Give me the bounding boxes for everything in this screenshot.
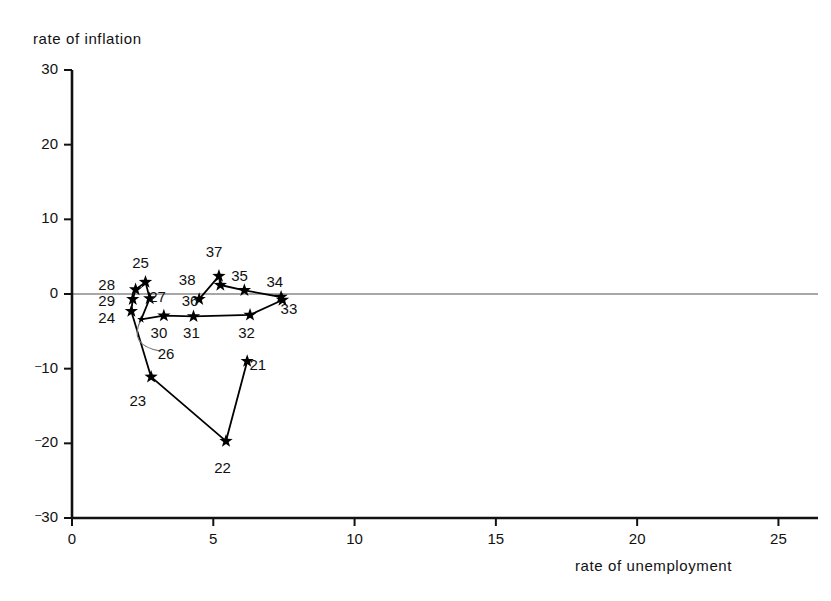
point-label-22: 22 xyxy=(214,459,231,476)
point-label-36: 36 xyxy=(182,292,199,309)
star-marker-28 xyxy=(129,283,142,296)
point-label-26: 26 xyxy=(158,345,175,362)
y-tick-label: 30 xyxy=(16,508,58,525)
y-tick-label: 20 xyxy=(16,135,58,152)
y-tick-label: 30 xyxy=(16,60,58,77)
point-label-25: 25 xyxy=(132,254,149,271)
y-tick-label: 20 xyxy=(16,433,58,450)
x-axis-title: rate of unemployment xyxy=(575,557,732,574)
y-tick-label: 10 xyxy=(16,359,58,376)
star-marker-32 xyxy=(243,308,256,321)
point-label-35: 35 xyxy=(231,267,248,284)
point-label-32: 32 xyxy=(238,324,255,341)
star-marker-26 xyxy=(137,315,145,323)
x-tick-label: 20 xyxy=(617,530,657,547)
point-label-28: 28 xyxy=(98,276,115,293)
star-marker-30 xyxy=(157,309,170,322)
point-label-33: 33 xyxy=(281,300,298,317)
point-label-27: 27 xyxy=(149,288,166,305)
point-label-21: 21 xyxy=(250,356,267,373)
point-label-30: 30 xyxy=(151,324,168,341)
point-label-37: 37 xyxy=(206,243,223,260)
y-axis-title: rate of inflation xyxy=(33,30,142,47)
point-label-31: 31 xyxy=(183,324,200,341)
x-tick-label: 10 xyxy=(335,530,375,547)
point-label-29: 29 xyxy=(98,292,115,309)
phillips-curve-chart xyxy=(0,0,831,601)
point-label-38: 38 xyxy=(179,271,196,288)
y-tick-label: 10 xyxy=(16,209,58,226)
x-tick-label: 5 xyxy=(193,530,233,547)
point-label-23: 23 xyxy=(129,392,146,409)
point-label-24: 24 xyxy=(98,309,115,326)
x-tick-label: 25 xyxy=(758,530,798,547)
star-marker-24 xyxy=(125,304,138,317)
x-tick-label: 0 xyxy=(52,530,92,547)
star-marker-31 xyxy=(187,309,200,322)
point-label-34: 34 xyxy=(266,273,283,290)
x-tick-label: 15 xyxy=(476,530,516,547)
y-tick-label: 0 xyxy=(16,284,58,301)
